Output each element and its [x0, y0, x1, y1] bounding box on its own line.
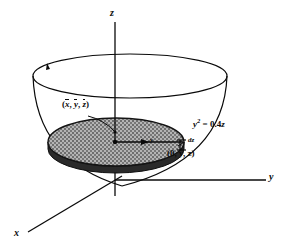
surface-equation-label: y2 = 0.4z: [193, 118, 225, 129]
centroid-x-bar: x: [65, 100, 70, 109]
paraboloid-top-rim: [33, 54, 227, 98]
x-axis-label: x: [14, 228, 19, 238]
disk-element: [48, 118, 184, 173]
figure-canvas: z y x (x, y, z) y2 = 0.4z dz (0, y, z) y: [0, 0, 283, 248]
z-axis-label: z: [110, 8, 114, 18]
centroid-y-bar: y: [74, 100, 78, 109]
dz-label: dz: [188, 137, 194, 144]
y-axis-label: y: [269, 172, 273, 182]
paraboloid-diagram-svg: [0, 0, 283, 248]
centroid-z-bar: z: [83, 100, 87, 109]
radius-label: y: [150, 137, 153, 144]
point-label: (0, y, z): [167, 149, 195, 158]
centroid-paren-close: ): [86, 99, 89, 109]
x-axis: [28, 176, 122, 232]
equation-variable: z: [221, 119, 225, 129]
equation-relation: = 0.4: [200, 119, 221, 129]
centroid-label: (x, y, z): [62, 100, 89, 109]
